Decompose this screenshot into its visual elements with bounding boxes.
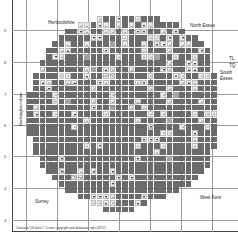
label-west-kent: West Kent — [200, 195, 221, 200]
label-tq: TQ — [229, 63, 235, 68]
copyright-notice: Contains OS data © Crown copyright and d… — [16, 226, 106, 230]
label-south-essex-2: Essex — [220, 76, 233, 81]
label-south-essex-1: South — [220, 70, 232, 75]
label-surrey: Surrey — [35, 199, 49, 204]
label-north-essex: North Essex — [190, 23, 215, 28]
label-hertfordshire: Hertfordshire — [48, 20, 75, 25]
label-tl: TL — [229, 56, 234, 61]
label-buckinghamshire: Buckinghamshire — [18, 92, 23, 126]
